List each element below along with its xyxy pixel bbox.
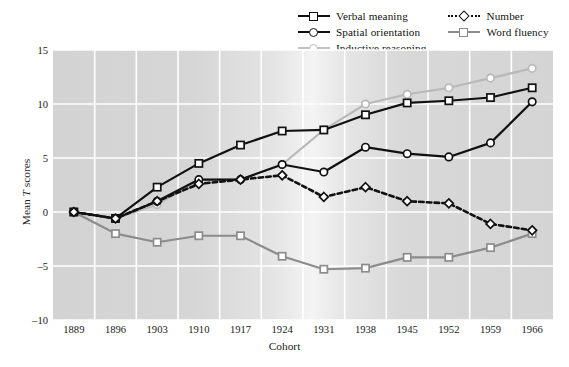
y-tick-label: –5	[14, 261, 48, 272]
x-tick-label: 1931	[302, 324, 346, 335]
x-tick-label: 1966	[510, 324, 554, 335]
x-tick-label: 1903	[135, 324, 179, 335]
x-tick-label: 1959	[469, 324, 513, 335]
x-tick-label: 1910	[177, 324, 221, 335]
x-axis-title: Cohort	[0, 340, 569, 352]
x-tick-label: 1889	[52, 324, 96, 335]
y-tick-label: 10	[14, 99, 48, 110]
y-axis-title: Mean T scores	[20, 122, 32, 262]
x-tick-label: 1924	[260, 324, 304, 335]
plot-area	[0, 0, 569, 367]
x-tick-label: 1945	[385, 324, 429, 335]
chart-figure: Verbal meaning Number Spatial orientatio…	[0, 0, 569, 367]
y-tick-label: 15	[14, 45, 48, 56]
x-tick-label: 1896	[94, 324, 138, 335]
x-tick-label: 1952	[427, 324, 471, 335]
x-tick-label: 1917	[219, 324, 263, 335]
y-tick-label: –10	[14, 315, 48, 326]
x-tick-label: 1938	[344, 324, 388, 335]
